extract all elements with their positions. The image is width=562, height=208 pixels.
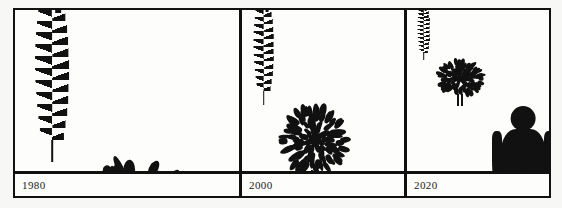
tree-leaf <box>279 147 290 155</box>
person-2020 <box>492 106 549 171</box>
tree-crown <box>437 60 483 97</box>
panel-row: 1980 200 <box>15 10 549 196</box>
wheat-spikelet <box>38 116 65 128</box>
tree-2020 <box>437 60 483 106</box>
tree-crown <box>77 162 195 171</box>
wheat-1980 <box>35 10 69 162</box>
panel-2000-label-band: 2000 <box>242 171 404 196</box>
panel-1980: 1980 <box>15 10 239 196</box>
wheat-spikelet <box>37 21 67 33</box>
panel-1980-scene <box>15 10 239 171</box>
wheat-stem <box>423 52 425 60</box>
person-head <box>511 106 536 131</box>
tree-leaf <box>283 128 292 134</box>
tree-trunk <box>457 94 463 106</box>
panel-2020-label-band: 2020 <box>407 171 549 196</box>
wheat-spikelet <box>36 92 68 104</box>
wheat-spikelet <box>36 32 68 44</box>
wheat-2020 <box>417 10 430 60</box>
figure-frame: 1980 200 <box>13 8 551 198</box>
tree-leaf <box>123 160 135 171</box>
wheat-head <box>253 10 274 92</box>
wheat-head <box>35 10 69 141</box>
wheat-spikelet <box>256 83 271 91</box>
panel-2020-scene <box>407 10 549 171</box>
year-label-1980: 1980 <box>22 180 46 191</box>
tree-2000 <box>282 105 348 171</box>
person-torso <box>501 129 546 171</box>
tree-trunk <box>311 170 319 171</box>
tree-leaf <box>163 168 181 171</box>
wheat-2000 <box>253 10 274 105</box>
wheat-spikelet <box>419 49 428 53</box>
tree-1980 <box>77 162 195 171</box>
wheat-spikelet <box>38 10 65 21</box>
wheat-spikelet <box>35 80 68 92</box>
tree-leaf <box>477 73 486 77</box>
person-right-leg <box>525 169 544 171</box>
panel-1980-label-band: 1980 <box>15 171 239 196</box>
illustration-canvas: 1980 200 <box>0 0 562 208</box>
tree-leaf <box>437 82 444 86</box>
wheat-stem <box>51 140 53 162</box>
wheat-spikelet <box>37 104 67 116</box>
person-left-arm <box>492 131 502 171</box>
panel-2000-scene <box>242 10 404 171</box>
year-label-2000: 2000 <box>249 180 273 191</box>
panel-2020: 2020 <box>404 10 549 196</box>
person-left-leg <box>502 169 521 171</box>
tree-leaf <box>146 159 162 171</box>
person-right-arm <box>544 131 549 171</box>
tree-leaf <box>313 103 319 116</box>
wheat-head <box>417 10 430 53</box>
year-label-2020: 2020 <box>414 180 438 191</box>
wheat-stem <box>263 91 265 105</box>
wheat-spikelet <box>35 68 69 80</box>
panel-2000: 2000 <box>239 10 404 196</box>
tree-leaf <box>340 137 351 144</box>
wheat-spikelet <box>35 44 68 56</box>
tree-leaf <box>334 130 345 137</box>
wheat-spikelet <box>35 56 69 68</box>
tree-crown <box>282 105 348 171</box>
wheat-spikelet <box>40 128 64 140</box>
